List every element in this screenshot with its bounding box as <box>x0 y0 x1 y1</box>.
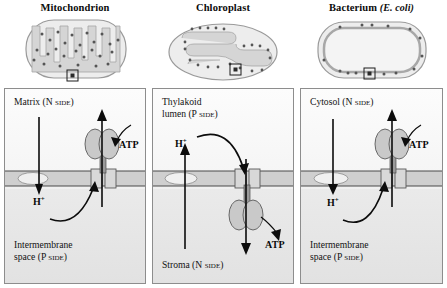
proton-return-curve <box>50 181 99 221</box>
title-text: Chloroplast <box>196 2 250 13</box>
lipid-bilayer <box>301 171 442 186</box>
atp-label: ATP <box>119 139 139 150</box>
bacterium-icon <box>300 16 443 88</box>
proton-label: H+ <box>327 196 339 208</box>
chloroplast-icon <box>152 16 294 88</box>
atp-label: ATP <box>265 239 285 250</box>
proton-return-curve <box>343 181 389 222</box>
title-text: Mitochondrion <box>41 2 110 13</box>
lipid-bilayer <box>5 171 145 186</box>
proton-label: H+ <box>175 137 187 149</box>
membrane-diagram-bacterium: Cytosol (N side) Intermembrane space (P … <box>300 88 443 284</box>
proton-label: H+ <box>33 195 45 207</box>
atp-label: ATP <box>409 139 429 150</box>
transport-protein <box>18 173 48 185</box>
membrane-diagram-mitochondrion: Matrix (N side) Intermembrane space (P s… <box>4 88 146 284</box>
proton-gradient-arrow <box>180 143 190 249</box>
transport-protein <box>314 173 348 185</box>
panel-title-bacterium: Bacterium (E. coli) <box>300 2 443 13</box>
lipid-bilayer <box>153 171 293 186</box>
panel-title-chloroplast: Chloroplast <box>152 2 294 13</box>
title-species: (E. coli) <box>380 2 414 13</box>
membrane-diagram-chloroplast: Thylakoid lumen (P side) Stroma (N side) <box>152 88 294 284</box>
transport-protein <box>165 173 197 185</box>
title-text: Bacterium <box>329 2 377 13</box>
panel-title-mitochondrion: Mitochondrion <box>4 2 146 13</box>
mitochondrion-icon <box>4 16 146 88</box>
atp-curve <box>261 217 281 241</box>
